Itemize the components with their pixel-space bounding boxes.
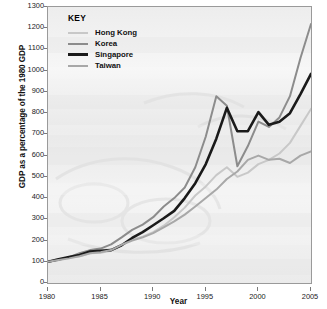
legend-item-label: Taiwan xyxy=(95,61,121,70)
legend-item-label: Singapore xyxy=(95,50,133,59)
y-tick-label: 300 xyxy=(18,214,44,221)
y-tick-label: 700 xyxy=(18,129,44,136)
y-tick-label: 1100 xyxy=(18,44,44,51)
series-line-taiwan xyxy=(48,151,311,261)
y-tick-label: 1200 xyxy=(18,23,44,30)
series-line-singapore xyxy=(48,74,311,262)
x-tick-mark xyxy=(152,287,153,291)
x-tick-mark xyxy=(100,287,101,291)
legend-item-hong-kong: Hong Kong xyxy=(68,27,137,38)
y-tick-label: 0 xyxy=(18,278,44,285)
legend-swatch-icon xyxy=(68,53,88,56)
legend-swatch-icon xyxy=(68,32,88,34)
y-tick-label: 900 xyxy=(18,87,44,94)
legend-title: KEY xyxy=(68,13,137,23)
y-axis-tick-labels: 0100200300400500600700800900100011001200… xyxy=(14,0,44,309)
y-tick-label: 400 xyxy=(18,193,44,200)
y-tick-label: 100 xyxy=(18,257,44,264)
chart-legend: KEY Hong KongKoreaSingaporeTaiwan xyxy=(68,13,137,71)
x-tick-mark xyxy=(257,287,258,291)
y-tick-label: 1300 xyxy=(18,2,44,9)
legend-swatch-icon xyxy=(68,43,88,45)
x-tick-mark xyxy=(47,287,48,291)
series-line-hong-kong xyxy=(48,109,311,262)
y-tick-label: 1000 xyxy=(18,66,44,73)
y-tick-label: 500 xyxy=(18,172,44,179)
y-tick-label: 800 xyxy=(18,108,44,115)
legend-items: Hong KongKoreaSingaporeTaiwan xyxy=(68,27,137,71)
x-axis-title: Year xyxy=(47,297,310,306)
legend-item-label: Korea xyxy=(95,39,117,48)
legend-item-label: Hong Kong xyxy=(95,28,137,37)
x-tick-mark xyxy=(310,287,311,291)
legend-swatch-icon xyxy=(68,65,88,67)
legend-item-korea: Korea xyxy=(68,38,137,49)
y-tick-label: 200 xyxy=(18,236,44,243)
legend-item-taiwan: Taiwan xyxy=(68,60,137,71)
plot-area: KEY Hong KongKoreaSingaporeTaiwan xyxy=(47,6,312,284)
gdp-line-chart-figure: GDP as a percentage of the 1980 GDP 0100… xyxy=(0,0,327,309)
x-tick-mark xyxy=(205,287,206,291)
y-tick-label: 600 xyxy=(18,151,44,158)
legend-item-singapore: Singapore xyxy=(68,49,137,60)
